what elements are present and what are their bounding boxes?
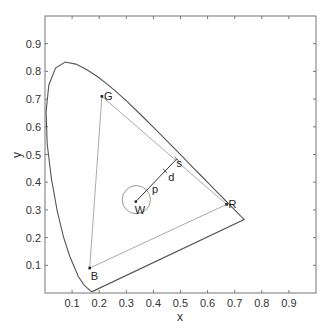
x-tick-label: 0.6 bbox=[200, 297, 215, 309]
y-tick-label: 0.2 bbox=[26, 232, 41, 244]
primary-G-point bbox=[101, 95, 104, 98]
primary-R-point bbox=[225, 203, 228, 206]
x-tick-label: 0.1 bbox=[64, 297, 79, 309]
y-tick-label: 0.7 bbox=[26, 93, 41, 105]
y-tick-label: 0.1 bbox=[26, 259, 41, 271]
x-tick-label: 0.2 bbox=[92, 297, 107, 309]
x-axis-label: x bbox=[177, 310, 183, 324]
primary-B-label: B bbox=[91, 270, 98, 282]
line-label-s: s bbox=[176, 157, 182, 169]
primary-B-point bbox=[88, 267, 91, 270]
chromaticity-chart: 0.10.20.30.40.50.60.70.80.90.10.20.30.40… bbox=[0, 0, 332, 335]
primary-G-label: G bbox=[104, 90, 113, 102]
y-tick-label: 0.6 bbox=[26, 121, 41, 133]
x-tick-label: 0.5 bbox=[173, 297, 188, 309]
white-point-label: W bbox=[135, 204, 146, 216]
x-tick-label: 0.8 bbox=[254, 297, 269, 309]
line-label-d: d bbox=[168, 171, 174, 183]
y-tick-label: 0.5 bbox=[26, 149, 41, 161]
y-axis-label: y bbox=[10, 152, 24, 158]
y-tick-label: 0.8 bbox=[26, 65, 41, 77]
primary-R-label: R bbox=[229, 198, 237, 210]
y-tick-label: 0.9 bbox=[26, 38, 41, 50]
x-tick-label: 0.3 bbox=[119, 297, 134, 309]
x-tick-label: 0.4 bbox=[146, 297, 161, 309]
x-tick-label: 0.9 bbox=[281, 297, 296, 309]
line-label-p: p bbox=[152, 183, 158, 195]
y-tick-label: 0.4 bbox=[26, 176, 41, 188]
white-point bbox=[135, 200, 137, 202]
x-tick-label: 0.7 bbox=[227, 297, 242, 309]
y-tick-label: 0.3 bbox=[26, 204, 41, 216]
